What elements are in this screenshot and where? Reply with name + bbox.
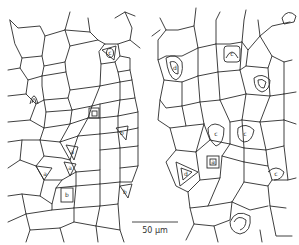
svg-text:a: a [70,148,74,155]
right-panel-cells [152,8,296,242]
cell-network-drawing: c a a a b b b d c c c a d c [0,0,299,245]
svg-text:c: c [274,170,277,177]
svg-text:b: b [120,129,124,136]
epidermis-figure: c a a a b b b d c c c a d c 50 µm [0,0,299,245]
stoma-2 [30,96,38,104]
svg-text:a: a [43,170,47,177]
svg-text:d: d [173,64,177,71]
svg-text:a: a [211,158,215,165]
svg-text:b: b [65,191,69,198]
svg-text:c: c [230,50,233,57]
svg-text:a: a [68,164,72,171]
scale-bar-label: 50 µm [135,226,175,235]
stoma-12 [254,75,270,92]
stoma-18 [230,213,250,234]
svg-text:c: c [108,49,111,56]
svg-text:b: b [123,188,127,195]
svg-text:c: c [243,130,246,137]
svg-text:c: c [214,130,217,137]
svg-text:d: d [184,170,188,177]
